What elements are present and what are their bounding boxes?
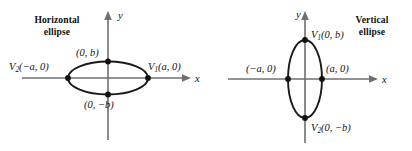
vertical-left-covertex-label: (−a, 0): [246, 63, 276, 75]
vertical-bottom-vertex-dot: [302, 115, 308, 121]
horizontal-left-vertex-label: V2(−a, 0): [9, 61, 49, 74]
horizontal-bottom-covertex-dot: [105, 92, 111, 98]
vertical-panel-y-axis-label: y: [295, 9, 301, 20]
ellipse-figure: y x V2(−a, 0) V1(a, 0) (0, b) (0, −b): [0, 0, 412, 151]
vertical-caption-line-1: Vertical: [338, 14, 406, 26]
vertical-right-covertex-label: (a, 0): [326, 63, 349, 75]
horizontal-right-vertex-dot: [145, 75, 151, 81]
horizontal-right-vertex-label: V1(a, 0): [148, 61, 181, 74]
vertical-top-vertex-dot: [302, 37, 308, 43]
horizontal-bottom-covertex-label: (0, −b): [84, 99, 114, 111]
vertical-right-covertex-dot: [319, 76, 325, 82]
vertical-ellipse-caption: Vertical ellipse: [338, 14, 406, 38]
vertical-panel-x-axis: [228, 75, 378, 83]
vertical-panel-y-axis: [301, 11, 309, 143]
horizontal-ellipse-caption: Horizontal ellipse: [14, 14, 100, 38]
vertical-panel-x-axis-label: x: [381, 74, 387, 85]
horizontal-top-covertex-dot: [105, 59, 111, 65]
horizontal-panel-x-axis: [22, 74, 191, 82]
horizontal-caption-line-2: ellipse: [14, 26, 100, 38]
vertical-bottom-vertex-label: V2(0, −b): [311, 122, 351, 135]
horizontal-panel-y-axis: [104, 11, 112, 140]
horizontal-caption-line-1: Horizontal: [14, 14, 100, 26]
horizontal-panel-y-axis-label: y: [117, 10, 123, 21]
horizontal-top-covertex-label: (0, b): [76, 47, 99, 59]
horizontal-panel-x-axis-label: x: [194, 73, 200, 84]
horizontal-left-vertex-dot: [65, 75, 71, 81]
vertical-caption-line-2: ellipse: [338, 26, 406, 38]
vertical-left-covertex-dot: [285, 76, 291, 82]
